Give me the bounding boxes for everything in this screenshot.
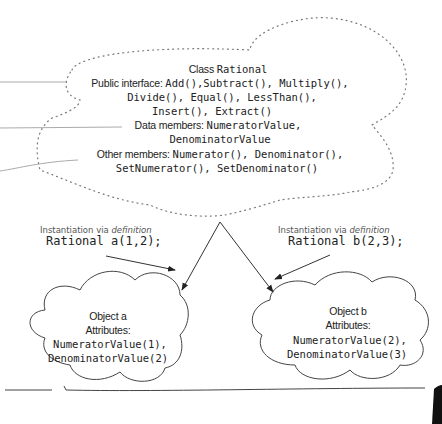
object-a-attr-denominator: DenominatorValue(2) [48,351,168,365]
public-interface-label: Public interface: [91,77,162,89]
other-members-pointer [0,160,78,171]
object-b-attributes-label: Attributes: [325,318,370,332]
bottom-rule [5,386,425,391]
data-members-2: DenominatorValue [169,132,270,146]
object-b-title: Object b [329,304,367,318]
arrow-definition-a [106,256,175,270]
object-b-attr-numerator: NumeratorValue(2), [293,333,407,347]
arrow-definition-b [275,255,330,279]
public-interface-methods-3: Insert(), Extract() [152,104,272,118]
class-title: Class Rational [189,62,268,76]
data-members-line: Data members: NumeratorValue, [135,118,302,132]
data-members-label: Data members: [135,119,204,131]
public-interface-line: Public interface: Add(),Subtract(), Mult… [91,76,348,90]
class-name: Rational [217,63,268,75]
public-interface-methods-2: Divide(), Equal(), LessThan(), [127,90,317,104]
other-members-line: Other members: Numerator(), Denominator(… [97,147,344,161]
other-members-label: Other members: [97,148,170,160]
object-a-attributes-label: Attributes: [85,323,130,337]
data-members-pointer [0,127,122,128]
object-a-title: Object a [89,309,127,323]
object-b-attr-denominator: DenominatorValue(3) [287,347,407,361]
instantiation-b-code: Rational b(2,3); [288,234,404,248]
object-a-attr-numerator: NumeratorValue(1), [53,337,167,351]
arrow-class-to-object-b [220,222,273,292]
arrow-class-to-object-a [182,222,220,290]
class-keyword: Class [189,63,214,75]
instantiation-a-code: Rational a(1,2); [46,234,162,248]
public-interface-methods-1: Add(),Subtract(), Multiply(), [165,77,348,89]
other-members-2: SetNumerator(), SetDenominator() [116,161,318,175]
data-members-1: NumeratorValue, [207,119,302,131]
corner-black-mark [432,385,442,424]
other-members-1: Numerator(), Denominator(), [173,148,344,160]
